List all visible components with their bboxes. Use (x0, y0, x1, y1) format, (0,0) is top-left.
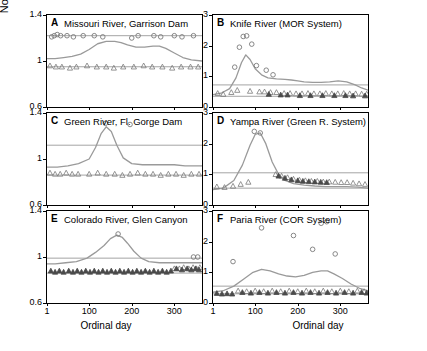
y-tick-label: 3 (182, 107, 208, 117)
x-tick-mark (340, 107, 341, 110)
x-tick-label: 100 (240, 306, 270, 316)
panel-title-c: Green River, Fl. Gorge Dam (64, 116, 182, 127)
y-tick-mark (209, 76, 212, 77)
x-tick-mark (255, 107, 256, 110)
y-tick-mark (43, 303, 46, 304)
x-tick-mark (340, 205, 341, 208)
y-tick-mark (209, 211, 212, 212)
y-tick-mark (209, 15, 212, 16)
x-tick-label: 1 (198, 306, 228, 316)
y-tick-label: 1.4 (16, 107, 42, 117)
y-tick-mark (209, 144, 212, 145)
x-tick-label: 200 (117, 306, 147, 316)
figure-root: Normalized discharge AMissouri River, Ga… (0, 0, 427, 351)
y-tick-label: 1 (16, 251, 42, 261)
panel-tag-e: E (51, 213, 58, 224)
y-tick-label: 1 (16, 55, 42, 65)
x-tick-mark (89, 107, 90, 110)
y-tick-label: 1 (182, 266, 208, 276)
y-tick-label: 1.4 (16, 9, 42, 19)
y-tick-mark (43, 211, 46, 212)
x-tick-mark (174, 205, 175, 208)
panel-title-e: Colorado River, Glen Canyon (64, 214, 188, 225)
panel-tag-b: B (217, 17, 224, 28)
panel-tag-c: C (51, 115, 58, 126)
panel-tag-d: D (217, 115, 224, 126)
y-tick-label: 1 (182, 168, 208, 178)
y-tick-label: 3 (182, 205, 208, 215)
y-tick-label: 2 (182, 138, 208, 148)
x-tick-mark (89, 205, 90, 208)
y-tick-mark (43, 107, 46, 108)
y-tick-mark (43, 113, 46, 114)
y-tick-mark (43, 159, 46, 160)
chart-panel-d: DYampa River (Green R. System) (212, 112, 369, 206)
x-tick-label: 1 (32, 306, 62, 316)
x-axis-label-right: Ordinal day (258, 320, 378, 331)
x-tick-mark (255, 205, 256, 208)
y-tick-mark (209, 113, 212, 114)
x-tick-label: 300 (159, 306, 189, 316)
x-axis-label-left: Ordinal day (46, 320, 166, 331)
panel-tag-f: F (217, 213, 223, 224)
x-tick-mark (298, 205, 299, 208)
y-tick-mark (209, 205, 212, 206)
chart-panel-b: BKnife River (MOR System) (212, 14, 369, 108)
y-tick-mark (209, 303, 212, 304)
y-tick-mark (43, 15, 46, 16)
panel-title-f: Paria River (COR System) (230, 214, 341, 225)
y-tick-mark (43, 205, 46, 206)
chart-panel-c: CGreen River, Fl. Gorge Dam (46, 112, 203, 206)
x-tick-mark (47, 107, 48, 110)
x-tick-mark (132, 107, 133, 110)
y-tick-label: 1 (16, 153, 42, 163)
y-tick-mark (209, 107, 212, 108)
panel-title-b: Knife River (MOR System) (230, 18, 342, 29)
y-tick-label: 1 (182, 70, 208, 80)
chart-panel-a: AMissouri River, Garrison Dam (46, 14, 203, 108)
y-tick-mark (43, 257, 46, 258)
x-tick-mark (47, 205, 48, 208)
y-tick-label: 2 (182, 40, 208, 50)
x-tick-mark (132, 205, 133, 208)
y-tick-mark (43, 61, 46, 62)
panel-tag-a: A (51, 17, 58, 28)
y-tick-label: 3 (182, 9, 208, 19)
y-tick-mark (209, 242, 212, 243)
x-tick-label: 100 (74, 306, 104, 316)
y-tick-label: 2 (182, 236, 208, 246)
x-tick-mark (174, 107, 175, 110)
y-axis-label: Normalized discharge (0, 0, 10, 60)
x-tick-label: 300 (325, 306, 355, 316)
chart-panel-e: EColorado River, Glen Canyon (46, 210, 203, 304)
y-tick-mark (209, 272, 212, 273)
x-tick-mark (213, 107, 214, 110)
y-tick-label: 1.4 (16, 205, 42, 215)
panel-title-a: Missouri River, Garrison Dam (64, 18, 188, 29)
panel-title-d: Yampa River (Green R. System) (230, 116, 366, 127)
x-tick-label: 200 (283, 306, 313, 316)
x-tick-mark (298, 107, 299, 110)
x-tick-mark (213, 205, 214, 208)
chart-panel-f: FParia River (COR System) (212, 210, 369, 304)
y-tick-mark (209, 46, 212, 47)
y-tick-mark (209, 174, 212, 175)
